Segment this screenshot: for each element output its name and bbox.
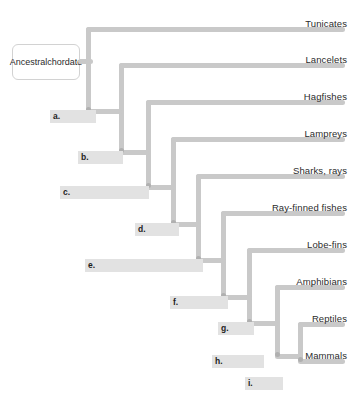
taxon-label-lobe-fins: Lobe-fins: [307, 239, 347, 250]
trunk-node-d-to-node-e: [196, 174, 201, 261]
taxon-label-tunicates: Tunicates: [305, 18, 347, 29]
taxon-label-hagfishes: Hagfishes: [304, 91, 347, 102]
trunk-node-b-to-node-c: [146, 100, 151, 188]
cladogram-figure: Ancestral chordate Tunicate: [0, 0, 355, 406]
answer-blank-a[interactable]: a.: [50, 110, 96, 123]
taxon-label-lancelets: Lancelets: [305, 54, 347, 65]
trunk-node-a-to-node-b: [119, 63, 124, 153]
answer-blank-i[interactable]: i.: [245, 377, 283, 390]
ancestral-chordate-box: Ancestral chordate: [12, 44, 80, 80]
answer-blank-e[interactable]: e.: [85, 259, 203, 272]
trunk-node-f-to-node-g: [247, 248, 252, 324]
node-dot-h: [275, 352, 280, 357]
taxon-label-mammals: Mammals: [305, 350, 347, 361]
taxon-label-ray-finned: Ray-finned fishes: [272, 202, 347, 213]
taxon-label-sharks-rays: Sharks, rays: [293, 165, 347, 176]
trunk-node-e-to-node-f: [221, 211, 226, 298]
answer-blank-h[interactable]: h.: [212, 355, 264, 368]
root-label-line1: Ancestral: [10, 56, 48, 68]
taxon-label-lampreys: Lampreys: [304, 128, 347, 139]
answer-blank-d[interactable]: d.: [135, 223, 179, 236]
taxon-label-reptiles: Reptiles: [312, 313, 347, 324]
answer-blank-c[interactable]: c.: [60, 186, 149, 199]
node-dot-i: [298, 357, 303, 362]
trunk-node-c-to-node-d: [171, 137, 176, 225]
answer-blank-g[interactable]: g.: [218, 322, 254, 335]
answer-blank-b[interactable]: b.: [78, 151, 123, 164]
root-label-line2: chordate: [47, 56, 82, 68]
trunk-root-to-node-a: [86, 27, 91, 112]
taxon-label-amphibians: Amphibians: [296, 276, 347, 287]
answer-blank-f[interactable]: f.: [170, 296, 228, 309]
